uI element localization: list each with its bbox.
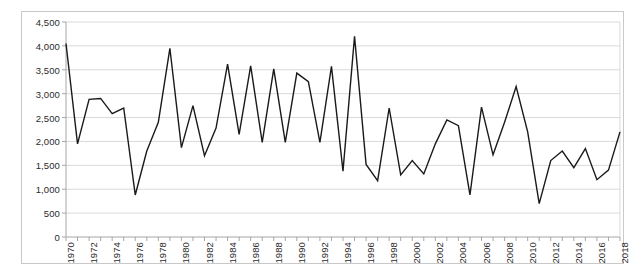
x-axis-tick-label: 1984 <box>226 242 237 264</box>
x-axis-tick-label: 2004 <box>457 242 468 264</box>
x-axis-tick-label: 2010 <box>526 242 537 264</box>
x-axis-tick-label: 1970 <box>65 242 76 264</box>
x-axis-tick-label: 2006 <box>480 242 491 264</box>
x-axis-tick-label: 1990 <box>295 242 306 264</box>
x-axis-tick-label: 1998 <box>388 242 399 264</box>
x-axis-tick-label: 2012 <box>549 242 560 264</box>
x-axis-tick-label: 1996 <box>365 242 376 264</box>
x-axis-tick-label: 1988 <box>272 242 283 264</box>
x-axis-tick-label: 1980 <box>180 242 191 264</box>
x-axis-tick-labels: 1970197219741976197819801982198419861988… <box>66 242 620 278</box>
y-axis-tick-label: 2,000 <box>36 136 60 147</box>
y-axis-tick-label: 0 <box>55 232 60 243</box>
y-axis-tick-label: 3,000 <box>36 88 60 99</box>
series-line-series-1 <box>66 36 620 203</box>
x-axis-tick-label: 2018 <box>619 242 630 264</box>
x-axis-tick-label: 1992 <box>318 242 329 264</box>
x-axis-tick-label: 1986 <box>249 242 260 264</box>
y-axis-tick-label: 500 <box>44 208 60 219</box>
x-axis-tick-label: 1976 <box>134 242 145 264</box>
x-axis-tick-label: 2016 <box>595 242 606 264</box>
y-axis-tick-label: 2,500 <box>36 112 60 123</box>
y-axis-tick-labels: 4,5004,0003,5003,0002,5002,0001,5001,000… <box>26 22 60 237</box>
y-axis-tick-label: 4,000 <box>36 40 60 51</box>
y-axis-tick-label: 1,500 <box>36 160 60 171</box>
y-axis-tick-label: 1,000 <box>36 184 60 195</box>
chart-data-line <box>66 22 620 237</box>
y-axis-tick-label: 4,500 <box>36 17 60 28</box>
x-axis-tick-label: 2008 <box>503 242 514 264</box>
x-axis-tick-label: 1978 <box>157 242 168 264</box>
y-axis-tick-label: 3,500 <box>36 64 60 75</box>
x-axis-tick-label: 1974 <box>111 242 122 264</box>
chart-screenshot: 4,5004,0003,5003,0002,5002,0001,5001,000… <box>0 0 643 279</box>
x-axis-tick-label: 1982 <box>203 242 214 264</box>
x-axis-tick-label: 2002 <box>434 242 445 264</box>
x-axis-tick-label: 2014 <box>572 242 583 264</box>
x-axis-tick-label: 1994 <box>342 242 353 264</box>
chart-plot-area <box>66 22 620 237</box>
x-axis-tick-label: 1972 <box>88 242 99 264</box>
x-axis-tick-label: 2000 <box>411 242 422 264</box>
